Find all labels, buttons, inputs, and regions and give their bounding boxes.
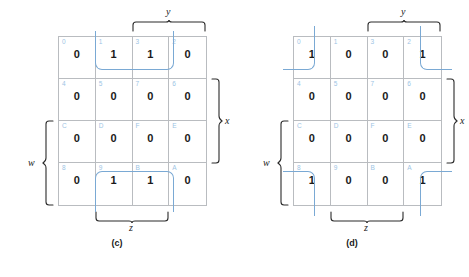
cell-value: 1 [133, 48, 169, 60]
cell-value: 0 [59, 174, 95, 186]
cell-value: 1 [404, 174, 441, 186]
cell-value: 0 [331, 48, 367, 60]
kmap-cell[interactable]: A0 [169, 163, 206, 205]
kmap-cell[interactable]: E0 [169, 121, 206, 163]
kmap-cell[interactable]: F0 [133, 121, 170, 163]
kmap-cell[interactable]: E0 [404, 121, 441, 163]
cell-value: 0 [294, 90, 330, 102]
cell-index-label: D [99, 122, 104, 130]
kmap-cell[interactable]: D0 [331, 121, 368, 163]
cell-index-label: 0 [297, 38, 301, 46]
cell-value: 1 [294, 48, 330, 60]
kmap-cell[interactable]: 20 [169, 37, 206, 79]
cell-index-label: 7 [136, 80, 140, 88]
cell-value: 1 [96, 174, 132, 186]
cell-index-label: 9 [334, 164, 338, 172]
cell-value: 0 [96, 132, 132, 144]
variable-label-w-c: w [28, 157, 35, 168]
brace-x-d [446, 78, 458, 164]
variable-label-y-c: y [166, 6, 170, 17]
cell-index-label: 6 [172, 80, 176, 88]
kmap-cell[interactable]: 91 [96, 163, 133, 205]
cell-value: 0 [169, 48, 206, 60]
kmap-cell[interactable]: 21 [404, 37, 441, 79]
kmap-cell[interactable]: B0 [368, 163, 405, 205]
kmap-cell[interactable]: 30 [368, 37, 405, 79]
cell-index-label: 8 [62, 164, 66, 172]
kmap-cell[interactable]: 11 [96, 37, 133, 79]
cell-index-label: 9 [99, 164, 103, 172]
kmap-cell[interactable]: 10 [331, 37, 368, 79]
cell-value: 0 [404, 132, 441, 144]
kmap-cell[interactable]: 40 [59, 79, 96, 121]
cell-value: 0 [169, 174, 206, 186]
cell-value: 1 [133, 174, 169, 186]
cell-value: 0 [294, 132, 330, 144]
cell-index-label: 3 [371, 38, 375, 46]
cell-index-label: 3 [136, 38, 140, 46]
kmap-cell[interactable]: 60 [169, 79, 206, 121]
cell-index-label: 2 [407, 38, 411, 46]
cell-index-label: 1 [99, 38, 103, 46]
cell-index-label: F [136, 122, 140, 130]
cell-value: 0 [331, 132, 367, 144]
cell-index-label: 4 [297, 80, 301, 88]
cell-index-label: 1 [334, 38, 338, 46]
cell-value: 1 [294, 174, 330, 186]
cell-index-label: 5 [334, 80, 338, 88]
kmap-cell[interactable]: 80 [59, 163, 96, 205]
figure-caption-d: (d) [235, 238, 469, 248]
cell-index-label: 7 [371, 80, 375, 88]
kmap-cell[interactable]: 50 [96, 79, 133, 121]
kmap-figure-c: y x w z 00 11 31 20 40 50 70 60 C0 D0 F0… [0, 0, 234, 277]
kmap-cell[interactable]: A1 [404, 163, 441, 205]
kmap-cell[interactable]: 31 [133, 37, 170, 79]
kmap-cell[interactable]: D0 [96, 121, 133, 163]
kmap-figure-d: y x w z 01 10 30 21 40 50 70 60 C0 D0 F0… [235, 0, 469, 277]
brace-w-c [42, 120, 54, 206]
cell-value: 0 [59, 90, 95, 102]
cell-index-label: A [172, 164, 176, 172]
cell-index-label: E [172, 122, 176, 130]
cell-index-label: C [62, 122, 67, 130]
variable-label-z-c: z [129, 222, 133, 233]
brace-y-d [367, 20, 442, 32]
cell-value: 1 [404, 48, 441, 60]
kmap-cell[interactable]: C0 [294, 121, 331, 163]
cell-index-label: E [407, 122, 411, 130]
kmap-cell[interactable]: 01 [294, 37, 331, 79]
cell-index-label: 5 [99, 80, 103, 88]
cell-value: 0 [96, 90, 132, 102]
cell-index-label: 6 [407, 80, 411, 88]
kmap-grid-d: 01 10 30 21 40 50 70 60 C0 D0 F0 E0 81 9… [293, 36, 442, 206]
cell-index-label: C [297, 122, 302, 130]
brace-y-c [132, 20, 207, 32]
variable-label-x-d: x [460, 115, 464, 126]
cell-index-label: F [371, 122, 375, 130]
kmap-cell[interactable]: 81 [294, 163, 331, 205]
variable-label-y-d: y [401, 6, 405, 17]
kmap-cell[interactable]: 50 [331, 79, 368, 121]
kmap-cell[interactable]: 40 [294, 79, 331, 121]
kmap-cell[interactable]: C0 [59, 121, 96, 163]
cell-value: 0 [331, 90, 367, 102]
cell-index-label: B [136, 164, 140, 172]
kmap-cell[interactable]: F0 [368, 121, 405, 163]
cell-index-label: A [407, 164, 411, 172]
kmap-cell[interactable]: 60 [404, 79, 441, 121]
kmap-cell[interactable]: 70 [133, 79, 170, 121]
cell-value: 1 [96, 48, 132, 60]
brace-w-d [277, 120, 289, 206]
cell-index-label: 0 [62, 38, 66, 46]
cell-value: 0 [368, 48, 404, 60]
cell-index-label: B [371, 164, 375, 172]
kmap-grid-c: 00 11 31 20 40 50 70 60 C0 D0 F0 E0 80 9… [58, 36, 207, 206]
kmap-cell[interactable]: 70 [368, 79, 405, 121]
kmap-cell[interactable]: 00 [59, 37, 96, 79]
cell-index-label: D [334, 122, 339, 130]
kmap-cell[interactable]: B1 [133, 163, 170, 205]
cell-index-label: 8 [297, 164, 301, 172]
kmap-cell[interactable]: 90 [331, 163, 368, 205]
variable-label-w-d: w [263, 157, 270, 168]
figure-caption-c: (c) [0, 238, 234, 248]
